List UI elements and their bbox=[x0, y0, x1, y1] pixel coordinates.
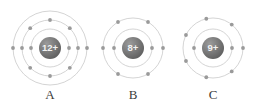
electron-shell2-1 bbox=[76, 46, 80, 50]
electron-shell1-1 bbox=[150, 46, 154, 50]
nucleus-charge-label: 9+ bbox=[208, 42, 219, 53]
electron-shell2-2 bbox=[146, 20, 150, 24]
electron-shell2-2 bbox=[68, 26, 72, 30]
electron-shell2-4 bbox=[184, 33, 188, 37]
electron-shell2-3 bbox=[204, 17, 208, 21]
electron-shell3-1 bbox=[85, 46, 89, 50]
electron-shell2-6 bbox=[28, 66, 32, 70]
electron-shell1-2 bbox=[29, 46, 33, 50]
atom-label-b: B bbox=[113, 86, 153, 104]
electron-shell1-1 bbox=[67, 46, 71, 50]
atom-diagram-b: 8+ bbox=[97, 12, 169, 84]
electron-shell2-3 bbox=[116, 20, 120, 24]
electron-shell2-2 bbox=[230, 23, 234, 27]
atom-svg-c: 9+ bbox=[177, 12, 249, 84]
electron-shell2-6 bbox=[146, 72, 150, 76]
atomic-models-figure: 12+8+9+ ABC bbox=[0, 0, 263, 108]
electron-shell1-2 bbox=[192, 46, 196, 50]
nucleus-charge-label: 8+ bbox=[128, 42, 139, 53]
atom-diagram-a: 12+ bbox=[7, 5, 93, 91]
nucleus-charge-label: 12+ bbox=[42, 42, 59, 53]
electron-shell2-5 bbox=[116, 72, 120, 76]
electron-shell3-2 bbox=[11, 46, 15, 50]
electron-shell2-1 bbox=[241, 46, 245, 50]
electron-shell1-1 bbox=[230, 46, 234, 50]
electron-shell2-4 bbox=[101, 46, 105, 50]
electron-shell2-5 bbox=[20, 46, 24, 50]
atom-diagram-c: 9+ bbox=[177, 12, 249, 84]
electron-shell2-5 bbox=[184, 59, 188, 63]
electron-shell2-3 bbox=[48, 18, 52, 22]
electron-shell2-6 bbox=[204, 75, 208, 79]
electron-shell2-4 bbox=[28, 26, 32, 30]
electron-shell2-1 bbox=[161, 46, 165, 50]
atom-svg-b: 8+ bbox=[97, 12, 169, 84]
atom-label-a: A bbox=[30, 86, 70, 104]
electron-shell2-7 bbox=[230, 70, 234, 74]
atom-svg-a: 12+ bbox=[7, 5, 93, 91]
electron-shell2-7 bbox=[48, 74, 52, 78]
electron-shell1-2 bbox=[112, 46, 116, 50]
electron-shell2-8 bbox=[68, 66, 72, 70]
atom-labels-row: ABC bbox=[0, 86, 263, 108]
atom-label-c: C bbox=[193, 86, 233, 104]
